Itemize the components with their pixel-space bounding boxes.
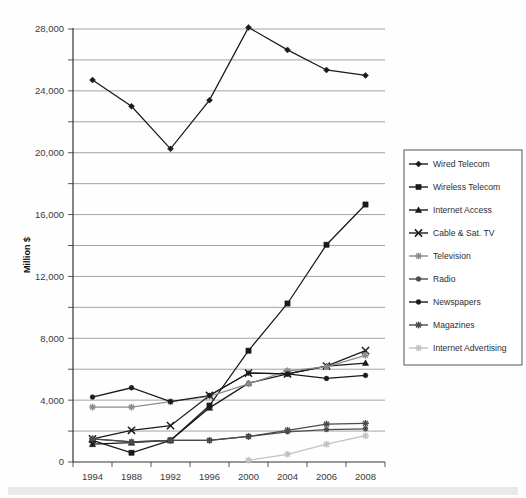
line-chart: 04,0008,00012,00016,00020,00024,00028,00… [0, 0, 526, 498]
x-tick-label: 1994 [82, 471, 103, 482]
data-point-asterisk [89, 404, 96, 411]
series-line [93, 355, 366, 407]
y-tick-label: 20,000 [35, 147, 64, 158]
series-line [249, 436, 366, 460]
data-point-square [324, 242, 329, 247]
series-line [93, 205, 366, 453]
y-axis-title-text: Million $ [22, 237, 32, 273]
gridlines [73, 29, 385, 431]
y-tick-label: 0 [59, 456, 64, 467]
data-point-diamond [324, 67, 330, 73]
series-internet-access [89, 360, 368, 447]
data-point-asterisk [245, 381, 252, 388]
chart-figure: 04,0008,00012,00016,00020,00024,00028,00… [0, 0, 526, 498]
data-point-asterisk [245, 457, 252, 464]
legend-label: Cable & Sat. TV [433, 228, 495, 238]
series-line [93, 27, 366, 148]
legend-label: Wireless Telecom [433, 182, 500, 192]
legend-label: Television [433, 251, 471, 261]
series-wired-telecom [90, 24, 369, 151]
x-tick-label: 1988 [121, 471, 142, 482]
data-point-asterisk [128, 438, 135, 445]
y-tick-label: 12,000 [35, 271, 64, 282]
chart-legend: Wired TelecomWireless TelecomInternet Ac… [404, 150, 522, 365]
data-point-circle [416, 300, 421, 305]
x-tick-label: 1996 [199, 471, 220, 482]
data-point-square [363, 202, 368, 207]
data-point-circle [324, 376, 329, 381]
legend-label: Wired Telecom [433, 159, 490, 169]
data-point-asterisk [362, 352, 369, 359]
series-internet-advertising [245, 432, 369, 463]
data-point-asterisk [128, 404, 135, 411]
y-axis-ticks [68, 29, 73, 462]
footer-strip [8, 487, 518, 495]
data-point-square [285, 301, 290, 306]
data-point-asterisk [362, 420, 369, 427]
y-axis-tick-labels: 04,0008,00012,00016,00020,00024,00028,00… [35, 23, 64, 467]
y-tick-label: 24,000 [35, 85, 64, 96]
data-series-layer [89, 24, 369, 463]
data-point-square [246, 348, 251, 353]
y-axis-title: Million $ [22, 237, 32, 273]
series-television [89, 352, 369, 411]
data-point-asterisk [323, 441, 330, 448]
data-point-circle [416, 277, 421, 282]
legend-label: Magazines [433, 320, 475, 330]
series-wireless-telecom [90, 202, 368, 455]
plot-frame [73, 28, 385, 462]
data-point-asterisk [323, 363, 330, 370]
data-point-circle [363, 426, 368, 431]
data-point-asterisk [323, 421, 330, 428]
data-point-diamond [363, 72, 369, 78]
y-tick-label: 4,000 [40, 395, 64, 406]
data-point-asterisk [167, 437, 174, 444]
y-tick-label: 28,000 [35, 23, 64, 34]
data-point-asterisk [415, 322, 422, 329]
data-point-circle [246, 371, 251, 376]
data-point-asterisk [284, 451, 291, 458]
series-newspapers [90, 371, 368, 404]
x-tick-label: 2004 [277, 471, 298, 482]
y-tick-label: 8,000 [40, 333, 64, 344]
data-point-circle [129, 385, 134, 390]
x-tick-label: 2006 [316, 471, 337, 482]
data-point-circle [324, 427, 329, 432]
data-point-asterisk [415, 345, 422, 352]
data-point-diamond [246, 24, 252, 30]
legend-item-cable-sat-tv[interactable]: Cable & Sat. TV [409, 228, 495, 238]
data-point-square [129, 450, 134, 455]
x-tick-label: 2008 [355, 471, 376, 482]
legend-label: Newspapers [433, 297, 481, 307]
legend-label: Internet Access [433, 205, 492, 215]
data-point-asterisk [415, 253, 422, 260]
data-point-circle [168, 399, 173, 404]
legend-label: Radio [433, 274, 456, 284]
data-point-circle [90, 395, 95, 400]
data-point-square [416, 184, 421, 189]
data-point-circle [363, 373, 368, 378]
data-point-circle [207, 393, 212, 398]
data-point-asterisk [89, 435, 96, 442]
x-tick-label: 2000 [238, 471, 259, 482]
legend-label: Internet Advertising [433, 343, 507, 353]
data-point-asterisk [362, 432, 369, 439]
y-tick-label: 16,000 [35, 209, 64, 220]
x-axis-ticks [73, 462, 385, 467]
data-point-asterisk [284, 427, 291, 434]
data-point-asterisk [245, 433, 252, 440]
x-axis-tick-labels: 19941988199219962000200420062008 [82, 471, 376, 482]
data-point-circle [285, 371, 290, 376]
data-point-diamond [285, 47, 291, 53]
x-tick-label: 1992 [160, 471, 181, 482]
data-point-asterisk [206, 437, 213, 444]
